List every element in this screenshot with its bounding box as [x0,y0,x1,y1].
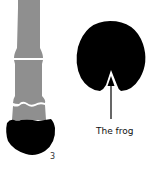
frog-arrow-head [108,76,115,86]
frog-label: The frog [96,126,134,136]
long-pastern-bone [14,8,43,58]
cannon-bone-stub [18,0,40,8]
short-pastern-bone [13,60,45,105]
coffin-bone [12,104,46,120]
figure-number-label: 3 [50,152,55,161]
leg-bones-svg [0,0,149,169]
hoof-side-view [6,119,55,155]
